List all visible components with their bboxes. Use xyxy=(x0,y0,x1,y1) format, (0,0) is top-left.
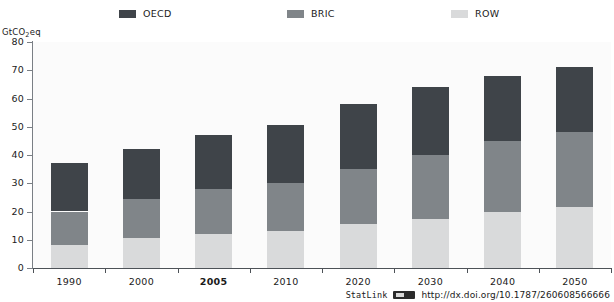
statlink-footer: StatLink http://dx.doi.org/10.1787/26060… xyxy=(0,288,614,302)
x-axis-tick xyxy=(611,268,612,273)
x-axis-tick-label-2050: 2050 xyxy=(540,276,610,287)
plot-background xyxy=(33,42,611,268)
bar-segment-oecd-2040 xyxy=(484,76,521,141)
y-axis-tick xyxy=(27,183,33,184)
bar-segment-bric-2005 xyxy=(195,189,232,234)
x-axis-tick xyxy=(33,268,34,273)
bar-segment-bric-1990 xyxy=(51,212,88,246)
y-axis-tick xyxy=(27,155,33,156)
statlink-url[interactable]: http://dx.doi.org/10.1787/260608566666 xyxy=(421,290,610,300)
bar-2010 xyxy=(267,42,304,268)
x-axis-tick-label-2040: 2040 xyxy=(468,276,538,287)
bar-segment-bric-2050 xyxy=(556,132,593,207)
bar-segment-row-2040 xyxy=(484,212,521,269)
statlink-badge-icon xyxy=(393,291,415,299)
x-axis-tick-label-2030: 2030 xyxy=(395,276,465,287)
bar-segment-oecd-2000 xyxy=(123,149,160,198)
x-axis-tick-label-1990: 1990 xyxy=(34,276,104,287)
y-axis-tick xyxy=(27,42,33,43)
y-axis-tick-label: 0 xyxy=(0,262,24,273)
x-axis-tick xyxy=(322,268,323,273)
bar-segment-row-2030 xyxy=(412,219,449,268)
x-axis-tick xyxy=(539,268,540,273)
bar-segment-row-2000 xyxy=(123,238,160,268)
bar-2040 xyxy=(484,42,521,268)
bar-2050 xyxy=(556,42,593,268)
bar-2030 xyxy=(412,42,449,268)
x-axis-tick-label-2005: 2005 xyxy=(179,276,249,287)
x-axis-tick xyxy=(394,268,395,273)
y-axis-tick xyxy=(27,70,33,71)
y-axis-tick-label: 60 xyxy=(0,93,24,104)
y-axis-tick-label: 50 xyxy=(0,121,24,132)
bar-segment-row-2050 xyxy=(556,207,593,268)
y-axis-tick xyxy=(27,240,33,241)
bar-2005 xyxy=(195,42,232,268)
x-axis-tick xyxy=(105,268,106,273)
x-axis-tick-label-2010: 2010 xyxy=(251,276,321,287)
bar-segment-oecd-2030 xyxy=(412,87,449,155)
emissions-stacked-bar-figure: OECD BRIC ROW GtCO2eq 01020304050607080 … xyxy=(0,0,614,302)
bar-segment-row-2005 xyxy=(195,234,232,268)
bar-segment-oecd-2020 xyxy=(340,104,377,169)
x-axis-tick xyxy=(250,268,251,273)
bar-segment-row-1990 xyxy=(51,245,88,268)
bar-segment-row-2020 xyxy=(340,224,377,268)
x-axis-tick xyxy=(178,268,179,273)
bar-segment-bric-2020 xyxy=(340,169,377,224)
y-axis-tick-label: 40 xyxy=(0,149,24,160)
bar-segment-bric-2040 xyxy=(484,141,521,212)
bar-segment-bric-2030 xyxy=(412,155,449,219)
bar-segment-oecd-1990 xyxy=(51,163,88,211)
bar-segment-bric-2010 xyxy=(267,183,304,231)
x-axis-tick-label-2020: 2020 xyxy=(323,276,393,287)
x-axis-tick-label-2000: 2000 xyxy=(106,276,176,287)
statlink-label: StatLink xyxy=(346,290,388,300)
bar-2000 xyxy=(123,42,160,268)
bar-segment-oecd-2005 xyxy=(195,135,232,189)
bar-segment-oecd-2010 xyxy=(267,125,304,183)
bar-2020 xyxy=(340,42,377,268)
y-axis-tick-label: 20 xyxy=(0,206,24,217)
bar-1990 xyxy=(51,42,88,268)
bar-segment-row-2010 xyxy=(267,231,304,268)
y-axis-tick-label: 70 xyxy=(0,64,24,75)
bar-segment-oecd-2050 xyxy=(556,67,593,132)
y-axis-tick-label: 80 xyxy=(0,36,24,47)
y-axis-tick-label: 30 xyxy=(0,177,24,188)
y-axis-tick xyxy=(27,99,33,100)
y-axis-tick xyxy=(27,212,33,213)
bar-segment-bric-2000 xyxy=(123,199,160,239)
y-axis-tick-label: 10 xyxy=(0,234,24,245)
x-axis-tick xyxy=(467,268,468,273)
y-axis-tick xyxy=(27,127,33,128)
plot-area: 01020304050607080 1990200020052010202020… xyxy=(0,0,614,302)
